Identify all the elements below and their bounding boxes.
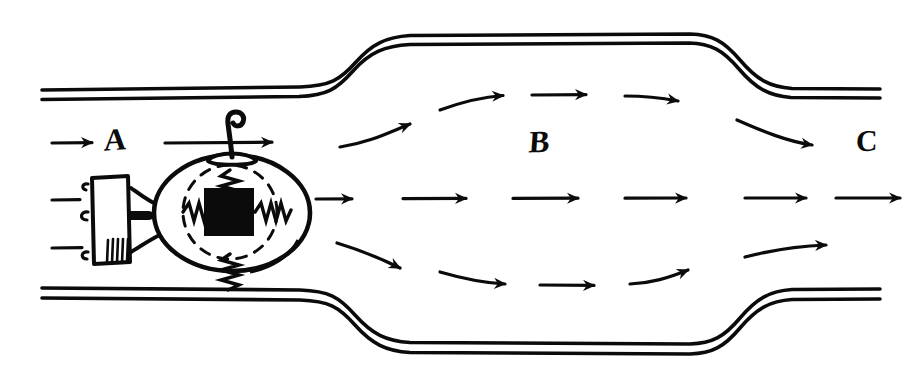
upper-arrow-diverge	[340, 124, 410, 147]
hook-eyelet	[208, 112, 256, 165]
lower-arrow-1	[440, 272, 505, 284]
duct-wall-top	[42, 34, 880, 100]
terminal-block	[81, 176, 164, 264]
diagram-canvas	[0, 0, 913, 386]
streamlines-upper	[340, 95, 812, 147]
duct-wall-bottom	[42, 288, 880, 354]
lower-arrow-diverge	[337, 243, 400, 268]
region-label-c: C	[856, 125, 878, 156]
hook-shank	[228, 112, 244, 157]
region-label-b: B	[528, 126, 551, 158]
terminal-block-body	[92, 176, 130, 264]
region-label-a: A	[104, 123, 127, 156]
upper-arrow-converge	[737, 120, 812, 145]
upper-arrow-1	[440, 96, 503, 111]
lower-arrow-3	[630, 270, 688, 284]
terminal-stub-right	[130, 212, 153, 219]
seismic-mass	[204, 188, 254, 236]
streamlines-lower	[337, 243, 826, 285]
lower-arrow-converge	[745, 245, 826, 257]
streamlines-center	[316, 198, 900, 199]
inlet-arrow-top-2	[165, 142, 272, 143]
flow-duct-diagram: A B C	[0, 0, 913, 386]
upper-arrow-3	[625, 96, 678, 101]
